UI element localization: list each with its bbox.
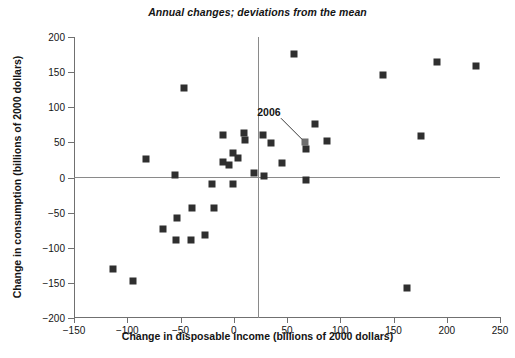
zero-reference-line-horizontal: [74, 177, 500, 178]
y-axis-tick-label: 100: [48, 102, 65, 113]
data-point: [210, 205, 217, 212]
data-point: [201, 232, 208, 239]
data-point: [250, 170, 257, 177]
x-axis-tick: [181, 317, 182, 323]
data-point: [242, 136, 249, 143]
data-point: [229, 180, 236, 187]
data-point: [260, 173, 267, 180]
y-axis-tick: [68, 213, 74, 214]
data-point: [189, 204, 196, 211]
data-point: [303, 146, 310, 153]
annotation-leader-line: [281, 118, 302, 139]
y-axis-tick-label: 50: [54, 137, 65, 148]
data-point: [188, 237, 195, 244]
x-axis-tick: [234, 317, 235, 323]
y-axis-tick-label: −200: [42, 313, 65, 324]
x-axis-tick: [74, 317, 75, 323]
x-axis-tick: [127, 317, 128, 323]
annotation-label-2006: 2006: [257, 106, 280, 118]
y-axis-tick: [68, 178, 74, 179]
data-point: [418, 133, 425, 140]
chart-title: Annual changes; deviations from the mean: [0, 6, 515, 18]
x-axis-tick: [394, 317, 395, 323]
data-point: [129, 277, 136, 284]
data-point: [143, 155, 150, 162]
data-point: [472, 62, 479, 69]
plot-area: −200−150−100−50050100150200−150−100−5005…: [74, 37, 500, 318]
data-point: [302, 139, 309, 146]
x-axis-title: Change in disposable income (billions of…: [0, 330, 515, 342]
y-axis-tick: [68, 72, 74, 73]
data-point: [259, 132, 266, 139]
y-axis-tick: [68, 142, 74, 143]
y-axis-tick: [68, 248, 74, 249]
y-axis-tick-label: −150: [42, 277, 65, 288]
x-axis-tick: [447, 317, 448, 323]
data-point: [110, 265, 117, 272]
x-axis-tick: [500, 317, 501, 323]
data-point: [291, 50, 298, 57]
data-point: [172, 172, 179, 179]
chart-container: Annual changes; deviations from the mean…: [0, 0, 515, 358]
data-point: [303, 177, 310, 184]
data-point: [278, 160, 285, 167]
data-point: [235, 154, 242, 161]
y-axis-title-wrapper: Change in consumption (billions of 2000 …: [10, 37, 24, 318]
y-axis-tick-label: 0: [59, 172, 65, 183]
y-axis-tick-label: −50: [48, 207, 65, 218]
data-point: [173, 237, 180, 244]
data-point: [434, 58, 441, 65]
data-point: [174, 214, 181, 221]
x-axis-tick: [340, 317, 341, 323]
y-axis-tick-label: 200: [48, 32, 65, 43]
y-axis-tick: [68, 37, 74, 38]
data-point: [180, 85, 187, 92]
data-point: [160, 225, 167, 232]
data-point: [268, 140, 275, 147]
data-point: [209, 180, 216, 187]
data-point: [311, 121, 318, 128]
y-axis-tick: [68, 283, 74, 284]
y-axis-tick-label: −100: [42, 242, 65, 253]
y-axis-tick-label: 150: [48, 67, 65, 78]
data-point: [226, 161, 233, 168]
data-point: [324, 137, 331, 144]
data-point: [404, 285, 411, 292]
x-axis-tick: [287, 317, 288, 323]
y-axis-title: Change in consumption (billions of 2000 …: [11, 27, 23, 327]
y-axis-tick: [68, 107, 74, 108]
data-point: [220, 131, 227, 138]
data-point: [379, 71, 386, 78]
